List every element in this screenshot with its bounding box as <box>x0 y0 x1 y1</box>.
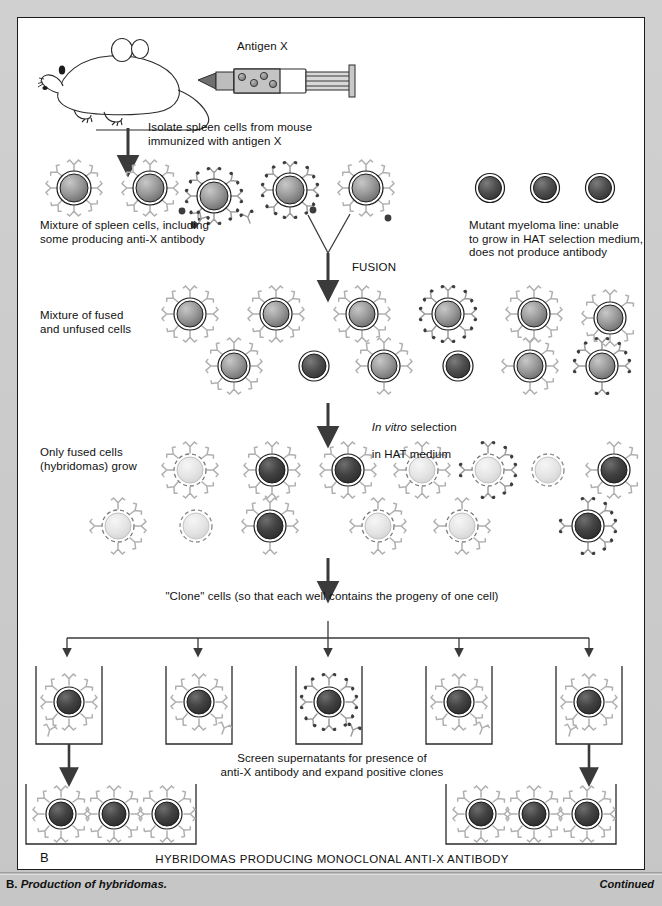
selection-rest: selection <box>407 421 457 433</box>
expanded-wells <box>26 784 616 844</box>
hybridoma-production-diagram <box>18 18 645 870</box>
clone-well <box>426 666 492 744</box>
figure-caption: B. Production of hybridomas. <box>6 878 656 890</box>
myeloma-cell-row <box>476 174 615 203</box>
fused-unfused-rows <box>162 285 635 395</box>
clone-well <box>36 666 102 744</box>
in-vitro-italic: In vitro <box>372 421 407 433</box>
continued-label: Continued <box>600 878 654 890</box>
clone-well <box>166 666 232 744</box>
caption-prefix: B. <box>6 878 18 890</box>
spleen-mixture-label: Mixture of spleen cells, including some … <box>40 219 209 246</box>
antigen-label: Antigen X <box>237 40 288 54</box>
clone-well <box>296 666 362 744</box>
expanded-well <box>26 784 196 844</box>
bottom-rule <box>0 872 662 875</box>
only-fused-label: Only fused cells (hybridomas) grow <box>40 446 137 473</box>
fusion-label: FUSION <box>352 261 396 275</box>
hat-selection-label: In vitro selection in HAT medium <box>352 407 457 475</box>
screen-instruction-label: Screen supernatants for presence of anti… <box>18 752 645 779</box>
isolate-instruction-label: Isolate spleen cells from mouse immunize… <box>148 121 312 148</box>
clone-distribution-tree <box>67 621 589 652</box>
bottom-title: HYBRIDOMAS PRODUCING MONOCLONAL ANTI-X A… <box>18 853 645 865</box>
caption-text: Production of hybridomas. <box>21 878 167 890</box>
clone-wells <box>36 666 622 744</box>
clone-instruction-label: "Clone" cells (so that each well contain… <box>18 590 645 604</box>
selection-line2: in HAT medium <box>372 448 451 460</box>
syringe-icon <box>198 65 355 97</box>
myeloma-label: Mutant myeloma line: unable to grow in H… <box>469 219 643 260</box>
expanded-well <box>446 784 616 844</box>
page-background: Antigen X Isolate spleen cells from mous… <box>0 0 662 906</box>
fused-unfused-label: Mixture of fused and unfused cells <box>40 309 131 336</box>
fusion-converge-lines <box>308 214 350 253</box>
figure-panel: Antigen X Isolate spleen cells from mous… <box>17 17 645 870</box>
mouse-illustration <box>38 39 209 131</box>
clone-well <box>556 666 622 744</box>
